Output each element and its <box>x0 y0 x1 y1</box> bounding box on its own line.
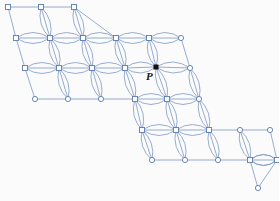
row-edge <box>156 67 190 68</box>
lattice-node-square <box>207 128 212 133</box>
lattice-node-square <box>81 36 86 41</box>
lattice-node-square <box>90 66 95 71</box>
lattice-node-square <box>248 158 253 163</box>
lattice-node-circle <box>178 35 183 40</box>
column-edge <box>270 130 277 160</box>
row-multi-edge <box>116 33 149 39</box>
row-edge <box>125 67 156 68</box>
row-multi-edge <box>92 63 125 69</box>
lattice-node-square <box>133 97 138 102</box>
row-multi-edge <box>116 38 149 44</box>
lattice-node-circle <box>215 157 220 162</box>
lattice-node-square <box>114 36 119 41</box>
lattice-node-square <box>140 128 145 133</box>
lattice-node-square <box>72 5 77 10</box>
lattice-node-square <box>123 66 128 71</box>
row-multi-edge <box>25 68 59 74</box>
row-multi-edge <box>50 33 83 39</box>
apex-edge <box>258 160 277 188</box>
lattice-node-circle <box>255 185 260 190</box>
lattice-node-circle <box>65 96 70 101</box>
row-multi-edge <box>149 33 181 39</box>
row-multi-edge <box>16 38 50 44</box>
lattice-node-square <box>14 36 19 41</box>
row-multi-edge <box>176 130 209 136</box>
point-p-label: P <box>146 71 153 82</box>
row-multi-edge <box>92 68 125 74</box>
lattice-node-circle <box>149 157 154 162</box>
column-edge <box>8 7 16 38</box>
lattice-node-circle <box>237 127 242 132</box>
row-multi-edge <box>83 38 116 44</box>
lattice-node-circle <box>267 127 272 132</box>
apex-multi-edge <box>250 155 277 161</box>
point-p-marker <box>154 65 159 70</box>
column-edge <box>199 99 209 130</box>
column-edge <box>16 38 25 68</box>
lattice-node-circle <box>196 96 201 101</box>
row-multi-edge <box>167 99 199 105</box>
row-multi-edge <box>176 125 209 131</box>
lattice-node-circle <box>187 65 192 70</box>
lattice-node-square <box>23 66 28 71</box>
row-multi-edge <box>50 38 83 44</box>
row-multi-edge <box>59 68 92 74</box>
row-multi-edge <box>83 33 116 39</box>
row-multi-edge <box>135 99 167 105</box>
lattice-node-square <box>275 158 280 163</box>
lattice-graph-svg <box>0 0 279 201</box>
row-multi-edge <box>167 94 199 100</box>
row-multi-edge <box>149 38 181 44</box>
row-multi-edge <box>142 125 176 131</box>
edge-layer <box>8 7 277 188</box>
lattice-node-square <box>48 36 53 41</box>
lattice-node-circle <box>32 96 37 101</box>
column-edge <box>25 68 35 99</box>
lattice-node-square <box>6 5 11 10</box>
lattice-node-circle <box>182 157 187 162</box>
column-edge <box>240 130 250 160</box>
column-edge <box>125 68 135 99</box>
diagonal-edge <box>74 7 116 38</box>
row-multi-edge <box>16 33 50 39</box>
row-multi-edge <box>25 63 59 69</box>
lattice-node-square <box>165 97 170 102</box>
lattice-node-square <box>174 128 179 133</box>
node-layer <box>6 5 280 191</box>
lattice-node-square <box>147 36 152 41</box>
apex-multi-edge <box>250 160 277 166</box>
lattice-node-square <box>57 66 62 71</box>
lattice-node-circle <box>98 96 103 101</box>
diagram-canvas: P <box>0 0 279 201</box>
row-multi-edge <box>142 130 176 136</box>
row-multi-edge <box>59 63 92 69</box>
lattice-node-square <box>39 5 44 10</box>
